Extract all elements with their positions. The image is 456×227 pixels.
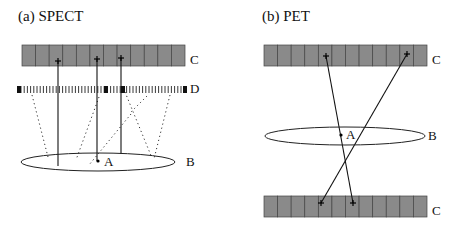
spect-panel: (a) SPECT C D A B (17, 8, 199, 171)
crystal-cell (413, 45, 427, 66)
crystal-cell (373, 196, 387, 217)
pet-body-label: B (428, 128, 437, 143)
crystal-cell (63, 45, 77, 66)
crystal-cell (332, 196, 346, 217)
spect-crystal-label: C (190, 52, 199, 67)
crystal-cell (373, 45, 387, 66)
crystal-cell (144, 45, 158, 66)
crystal-cell (332, 45, 346, 66)
crystal-cell (117, 45, 131, 66)
scattered-ray (32, 95, 48, 157)
collimator-block (104, 86, 108, 93)
collimator-block (17, 86, 21, 93)
crystal-cell (36, 45, 50, 66)
pet-crystal-array-bottom (264, 196, 427, 217)
collimator-block (183, 86, 187, 93)
crystal-cell (76, 45, 90, 66)
pet-crystal-bottom-label: C (432, 203, 441, 218)
spect-scattered-rays (32, 92, 170, 165)
spect-primary-rays (58, 58, 121, 166)
crystal-cell (264, 45, 278, 66)
crystal-cell (305, 45, 319, 66)
crystal-cell (386, 45, 400, 66)
crystal-cell (400, 196, 414, 217)
spect-collimator-label: D (190, 81, 199, 96)
scattered-ray (131, 96, 147, 112)
spect-source-label: A (104, 154, 114, 169)
scattered-ray (125, 92, 152, 158)
spect-pet-diagram: (a) SPECT C D A B (b) PET C C A B (0, 0, 456, 227)
crystal-cell (359, 196, 373, 217)
spect-body-label: B (186, 154, 195, 169)
pet-body-ellipse (265, 127, 425, 145)
crystal-cell (291, 196, 305, 217)
crystal-cell (171, 45, 185, 66)
scattered-ray (154, 95, 170, 159)
spect-collimator (17, 86, 187, 93)
crystal-cell (264, 196, 278, 217)
crystal-cell (386, 196, 400, 217)
scattered-ray (76, 97, 99, 160)
crystal-cell (49, 45, 63, 66)
crystal-cell (278, 196, 292, 217)
crystal-cell (104, 45, 118, 66)
crystal-cell (22, 45, 36, 66)
pet-source-point (339, 133, 342, 136)
crystal-cell (413, 196, 427, 217)
crystal-cell (278, 45, 292, 66)
spect-source-point (96, 159, 99, 162)
crystal-cell (346, 45, 360, 66)
spect-crystal-array (22, 45, 185, 66)
pet-crystal-array-top (264, 45, 427, 66)
pet-title: (b) PET (262, 8, 310, 25)
pet-source-label: A (346, 127, 356, 142)
pet-panel: (b) PET C C A B (262, 8, 441, 218)
collimator-block (121, 86, 125, 93)
crystal-cell (158, 45, 172, 66)
spect-title: (a) SPECT (18, 8, 83, 25)
crystal-cell (318, 196, 332, 217)
crystal-cell (131, 45, 145, 66)
crystal-cell (359, 45, 373, 66)
pet-crystal-top-label: C (432, 52, 441, 67)
crystal-cell (305, 196, 319, 217)
crystal-cell (291, 45, 305, 66)
